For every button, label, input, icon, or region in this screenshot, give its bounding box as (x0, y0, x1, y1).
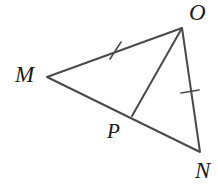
vertex-label-m: M (15, 63, 34, 86)
vertex-label-o: O (189, 1, 206, 24)
triangle-outline-mon (47, 28, 200, 152)
geometry-figure: M O P N (0, 0, 218, 188)
vertex-label-p: P (107, 121, 120, 142)
congruence-tick-mark-on-icon (181, 90, 199, 93)
vertex-label-n: N (195, 159, 210, 182)
triangle-diagram-svg (0, 0, 218, 188)
cevian-segment-op (132, 28, 182, 116)
